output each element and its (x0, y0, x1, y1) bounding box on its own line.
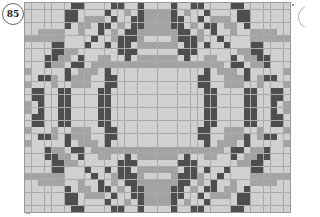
chart-cell (237, 36, 243, 42)
chart-cell (78, 147, 84, 153)
chart-cell (151, 16, 157, 22)
chart-cell (151, 186, 157, 192)
chart-cell (25, 121, 31, 127)
chart-cell (125, 167, 131, 173)
chart-cell (171, 140, 177, 146)
chart-cell (277, 186, 283, 192)
chart-cell (125, 68, 131, 74)
chart-cell (244, 173, 250, 179)
chart-cell (65, 42, 71, 48)
chart-cell (91, 108, 97, 114)
chart-cell (224, 101, 230, 107)
chart-cell (151, 173, 157, 179)
chart-cell (32, 3, 38, 9)
chart-cell (277, 180, 283, 186)
chart-cell (138, 23, 144, 29)
chart-cell (151, 62, 157, 68)
chart-cell (198, 160, 204, 166)
chart-cell (118, 134, 124, 140)
chart-cell (118, 140, 124, 146)
chart-cell (38, 49, 44, 55)
chart-cell (65, 140, 71, 146)
chart-cell (85, 160, 91, 166)
chart-cell (91, 160, 97, 166)
chart-cell (138, 68, 144, 74)
chart-cell (257, 29, 263, 35)
chart-cell (237, 167, 243, 173)
chart-cell (32, 193, 38, 199)
chart-cell (244, 127, 250, 133)
chart-cell (105, 154, 111, 160)
chart-cell (224, 49, 230, 55)
chart-cell (91, 101, 97, 107)
chart-cell (32, 114, 38, 120)
chart-cell (138, 36, 144, 42)
chart-cell (271, 180, 277, 186)
chart-cell (105, 62, 111, 68)
chart-cell (264, 88, 270, 94)
chart-cell (211, 95, 217, 101)
chart-cell (65, 108, 71, 114)
chart-cell (105, 193, 111, 199)
chart-cell (257, 160, 263, 166)
chart-cell (264, 3, 270, 9)
chart-cell (151, 3, 157, 9)
chart-cell (224, 193, 230, 199)
chart-cell (217, 55, 223, 61)
chart-cell (98, 88, 104, 94)
chart-cell (32, 36, 38, 42)
chart-cell (45, 95, 51, 101)
chart-cell (125, 75, 131, 81)
chart-cell (184, 167, 190, 173)
chart-cell (111, 193, 117, 199)
chart-cell (171, 82, 177, 88)
chart-cell (277, 127, 283, 133)
chart-cell (78, 127, 84, 133)
chart-cell (158, 75, 164, 81)
chart-cell (164, 42, 170, 48)
chart-cell (78, 154, 84, 160)
chart-cell (52, 108, 58, 114)
chart-cell (178, 199, 184, 205)
chart-cell (158, 29, 164, 35)
chart-cell (171, 167, 177, 173)
chart-cell (58, 55, 64, 61)
chart-cell (171, 108, 177, 114)
chart-cell (257, 147, 263, 153)
chart-cell (78, 23, 84, 29)
chart-cell (138, 140, 144, 146)
chart-cell (38, 36, 44, 42)
chart-cell (131, 160, 137, 166)
chart-cell (271, 95, 277, 101)
chart-cell (264, 127, 270, 133)
chart-cell (257, 186, 263, 192)
chart-cell (171, 206, 177, 212)
chart-cell (105, 42, 111, 48)
chart-cell (284, 114, 290, 120)
chart-cell (71, 121, 77, 127)
chart-cell (71, 140, 77, 146)
chart-cell (164, 23, 170, 29)
chart-cell (138, 3, 144, 9)
chart-cell (224, 16, 230, 22)
chart-cell (138, 167, 144, 173)
chart-cell (52, 114, 58, 120)
chart-cell (25, 114, 31, 120)
chart-cell (171, 55, 177, 61)
chart-cell (118, 101, 124, 107)
chart-cell (138, 95, 144, 101)
chart-cell (158, 127, 164, 133)
chart-cell (151, 114, 157, 120)
chart-cell (71, 3, 77, 9)
chart-cell (45, 199, 51, 205)
chart-cell (171, 121, 177, 127)
chart-cell (38, 147, 44, 153)
chart-cell (284, 55, 290, 61)
chart-cell (211, 173, 217, 179)
chart-cell (25, 173, 31, 179)
chart-cell (257, 206, 263, 212)
chart-cell (118, 75, 124, 81)
chart-cell (184, 23, 190, 29)
chart-cell (277, 167, 283, 173)
chart-cell (105, 180, 111, 186)
